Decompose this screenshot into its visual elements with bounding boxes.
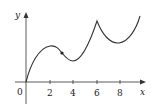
y-axis-label: y <box>14 10 21 20</box>
inflection-point-dot <box>60 51 63 54</box>
x-tick-label-6: 6 <box>94 88 100 98</box>
y-axis-arrow-icon <box>24 12 29 18</box>
x-axis-label: x <box>140 87 145 97</box>
function-curve <box>26 16 140 82</box>
x-axis-arrow-icon <box>140 80 146 85</box>
chart: 0 2 4 6 8 x y <box>0 0 151 110</box>
origin-label: 0 <box>17 87 23 97</box>
x-tick-label-8: 8 <box>117 88 123 98</box>
x-tick-label-2: 2 <box>47 88 53 98</box>
x-tick-label-4: 4 <box>70 88 76 98</box>
